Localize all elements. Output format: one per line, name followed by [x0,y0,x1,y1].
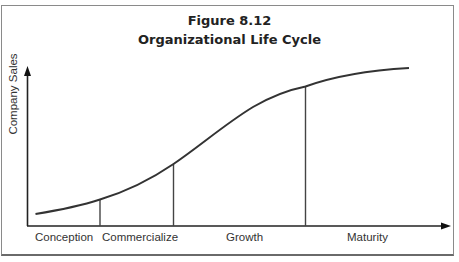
y-axis-arrow-icon [24,66,31,76]
y-axis-label: Company Sales [7,49,19,139]
x-axis-arrow-icon [441,223,451,230]
phase-label-commercialize: Commercialize [102,231,178,243]
phase-label-growth: Growth [226,231,263,243]
sales-curve [36,68,410,214]
phase-label-conception: Conception [35,231,93,243]
phase-label-maturity: Maturity [347,231,388,243]
life-cycle-chart [0,0,459,262]
